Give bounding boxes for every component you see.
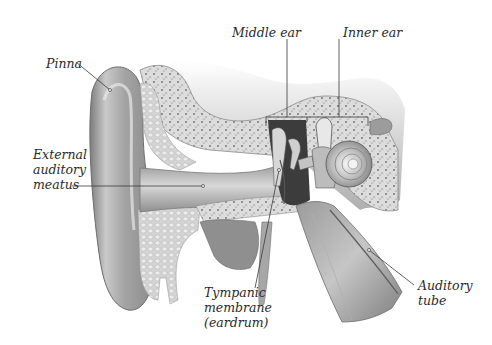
label-inner-ear: Inner ear	[343, 25, 402, 40]
label-pinna-line: Pinna	[46, 56, 82, 71]
label-auditory-tube: Auditory tube	[418, 278, 473, 308]
label-tympanic-line-1: Tympanic	[204, 285, 272, 300]
cochlea	[326, 141, 372, 187]
label-meatus-line-1: External	[33, 147, 87, 162]
label-auditory-tube-line-1: Auditory	[418, 278, 473, 293]
label-meatus-line-2: auditory	[33, 162, 87, 177]
label-tympanic-line-3: (eardrum)	[204, 315, 272, 330]
cartilage-lower	[138, 205, 200, 304]
auditory-nerve	[370, 119, 392, 135]
ear-anatomy-diagram: Pinna External auditory meatus Middle ea…	[0, 0, 492, 345]
label-auditory-tube-line-2: tube	[418, 293, 473, 308]
label-tympanic-membrane: Tympanic membrane (eardrum)	[204, 285, 272, 330]
label-meatus-line-3: meatus	[33, 177, 87, 192]
auditory-tube	[296, 202, 402, 323]
label-pinna: Pinna	[46, 56, 82, 71]
label-middle-ear: Middle ear	[232, 25, 301, 40]
label-external-auditory-meatus: External auditory meatus	[33, 147, 87, 192]
label-middle-ear-line: Middle ear	[232, 25, 301, 40]
label-tympanic-line-2: membrane	[204, 300, 272, 315]
label-inner-ear-line: Inner ear	[343, 25, 402, 40]
soft-tissue-lower	[200, 220, 259, 270]
